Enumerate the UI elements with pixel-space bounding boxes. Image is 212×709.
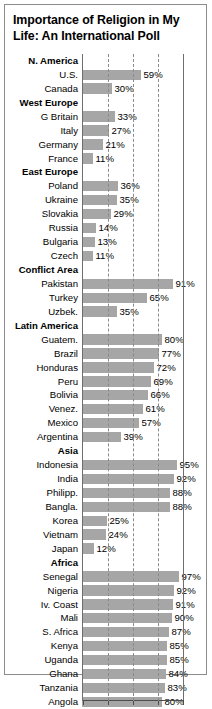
- category-label: Germany: [11, 140, 82, 150]
- bar-row: Korea25%: [11, 514, 200, 528]
- bar-value-label: 11%: [93, 154, 114, 164]
- category-label: Angola: [11, 697, 82, 707]
- bar-track: 11%: [82, 152, 200, 166]
- bar-row: Czech11%: [11, 249, 200, 263]
- bar-track: [82, 556, 200, 570]
- category-label: Nigeria: [11, 586, 82, 596]
- group-label: East Europe: [11, 167, 82, 177]
- bar-row: G Britain33%: [11, 110, 200, 124]
- bar-value-label: 25%: [107, 516, 129, 526]
- category-label: Japan: [11, 544, 82, 554]
- bar: [82, 279, 173, 289]
- bar: [82, 571, 179, 581]
- bar-value-label: 30%: [112, 84, 134, 94]
- bar-track: 85%: [82, 653, 200, 667]
- category-label: Iv. Coast: [11, 600, 82, 610]
- bar-row: Bolivia66%: [11, 389, 200, 403]
- category-label: India: [11, 474, 82, 484]
- bar-value-label: 35%: [117, 307, 139, 317]
- bar-value-label: 80%: [162, 335, 184, 345]
- category-label: Philipp.: [11, 488, 82, 498]
- bar: [82, 181, 118, 191]
- chart-frame: Importance of Religion in My Life: An In…: [4, 4, 207, 675]
- group-header-row: West Europe: [11, 96, 200, 110]
- bar-track: 57%: [82, 416, 200, 430]
- bar-row: Honduras72%: [11, 361, 200, 375]
- bar-track: 72%: [82, 361, 200, 375]
- bar-row: Russia14%: [11, 221, 200, 235]
- bar-value-label: 61%: [143, 404, 165, 414]
- bar-value-label: 80%: [162, 697, 184, 707]
- category-label: France: [11, 154, 82, 164]
- bar: [82, 516, 107, 526]
- bar: [82, 641, 167, 651]
- category-label: Poland: [11, 181, 82, 191]
- bar: [82, 153, 93, 163]
- bar: [82, 655, 167, 665]
- bar-track: [82, 96, 200, 110]
- group-header-row: Conflict Area: [11, 263, 200, 277]
- bar-row: Brazil77%: [11, 347, 200, 361]
- bar-value-label: 59%: [141, 70, 163, 80]
- bar-track: 11%: [82, 249, 200, 263]
- bar: [82, 306, 117, 316]
- bar-value-label: 39%: [121, 432, 143, 442]
- bar-track: 92%: [82, 472, 200, 486]
- bar: [82, 362, 154, 372]
- bar-track: 35%: [82, 193, 200, 207]
- bar: [82, 585, 174, 595]
- bar-track: 80%: [82, 695, 200, 709]
- bar-value-label: 87%: [169, 627, 191, 637]
- bar-track: 95%: [82, 458, 200, 472]
- group-label: N. America: [11, 56, 82, 66]
- bar: [82, 697, 162, 707]
- bar-value-label: 92%: [174, 474, 196, 484]
- group-header-row: Asia: [11, 444, 200, 458]
- group-header-row: Latin America: [11, 319, 200, 333]
- bar: [82, 460, 177, 470]
- bar-track: 85%: [82, 639, 200, 653]
- bar-track: 83%: [82, 681, 200, 695]
- bar-track: 36%: [82, 179, 200, 193]
- bar: [82, 209, 111, 219]
- category-label: Argentina: [11, 432, 82, 442]
- bar-track: 12%: [82, 542, 200, 556]
- bar-track: 90%: [82, 612, 200, 626]
- bar-value-label: 69%: [151, 377, 173, 387]
- bar-row: S. Africa87%: [11, 625, 200, 639]
- bar-value-label: 36%: [118, 181, 140, 191]
- category-label: Pakistan: [11, 279, 82, 289]
- chart-title: Importance of Religion in My Life: An In…: [13, 13, 200, 44]
- bar-track: [82, 263, 200, 277]
- bar: [82, 627, 169, 637]
- bar: [82, 293, 147, 303]
- group-header-row: Africa: [11, 556, 200, 570]
- bar-value-label: 72%: [154, 363, 176, 373]
- category-label: Russia: [11, 223, 82, 233]
- bar-track: 25%: [82, 514, 200, 528]
- bar-row: Turkey65%: [11, 291, 200, 305]
- bar: [82, 376, 151, 386]
- category-label: Ukraine: [11, 195, 82, 205]
- bar: [82, 237, 95, 247]
- bar-track: 21%: [82, 138, 200, 152]
- bar-track: 91%: [82, 598, 200, 612]
- bar-track: [82, 444, 200, 458]
- bar: [82, 474, 174, 484]
- bar-track: 66%: [82, 389, 200, 403]
- bar-value-label: 95%: [177, 460, 199, 470]
- bar-row: Japan12%: [11, 542, 200, 556]
- bar-value-label: 88%: [170, 488, 192, 498]
- bar-row: Angola80%: [11, 695, 200, 709]
- bar: [82, 432, 121, 442]
- category-label: Bangla.: [11, 502, 82, 512]
- category-label: Czech: [11, 251, 82, 261]
- plot-area: N. AmericaU.S.59%Canada30%West EuropeG B…: [11, 54, 200, 709]
- bar-rows: N. AmericaU.S.59%Canada30%West EuropeG B…: [11, 54, 200, 709]
- bar-track: 59%: [82, 68, 200, 82]
- category-label: Brazil: [11, 349, 82, 359]
- category-label: Guatem.: [11, 335, 82, 345]
- bar: [82, 139, 103, 149]
- bar: [82, 111, 115, 121]
